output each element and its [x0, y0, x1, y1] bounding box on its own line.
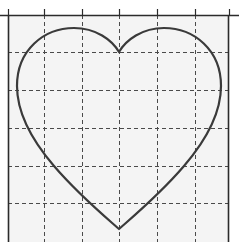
- figure-root: [0, 0, 239, 242]
- heart-plot-svg: [0, 0, 239, 242]
- axis-ticks-top: [9, 9, 230, 15]
